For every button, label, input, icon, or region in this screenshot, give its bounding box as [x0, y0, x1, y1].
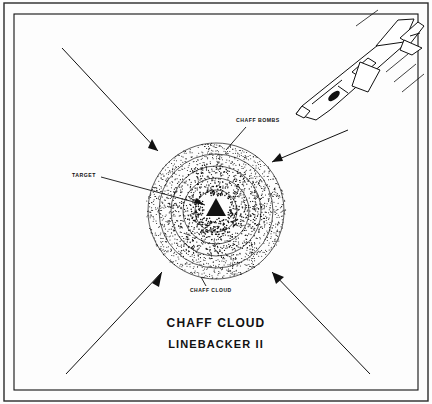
figure-title: CHAFF CLOUD	[0, 316, 432, 330]
approach-arrow-top-left	[62, 48, 158, 151]
figure-subtitle: LINEBACKER II	[0, 338, 432, 350]
aircraft-icon	[296, 10, 424, 120]
chaff-bombs-leader-line	[226, 127, 246, 150]
figure-canvas: CHAFF BOMBS TARGET CHAFF CLOUD CHAFF CLO…	[0, 0, 432, 404]
approach-arrow-from-aircraft	[272, 130, 348, 162]
target-triangle-icon	[206, 198, 226, 216]
label-chaff-cloud: CHAFF CLOUD	[190, 287, 232, 293]
label-chaff-bombs: CHAFF BOMBS	[236, 117, 280, 123]
label-target: TARGET	[72, 172, 96, 178]
